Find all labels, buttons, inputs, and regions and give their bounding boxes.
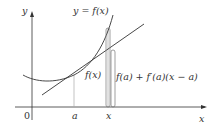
origin-label: 0 bbox=[24, 111, 30, 121]
tangent-bracket bbox=[111, 50, 115, 107]
y-axis-label: y bbox=[22, 6, 27, 16]
x-axis-label: x bbox=[199, 114, 204, 124]
x-axis-arrow-icon bbox=[201, 105, 207, 109]
y-axis-arrow-icon bbox=[30, 11, 34, 17]
tick-a-label: a bbox=[72, 111, 78, 121]
fx-label: f(x) bbox=[85, 70, 101, 80]
tangent-line bbox=[42, 24, 144, 95]
curve-label: y = f(x) bbox=[73, 6, 109, 16]
tick-x-label: x bbox=[106, 111, 111, 121]
tangent-value-label: f(a) + f′(a)(x − a) bbox=[116, 72, 198, 82]
